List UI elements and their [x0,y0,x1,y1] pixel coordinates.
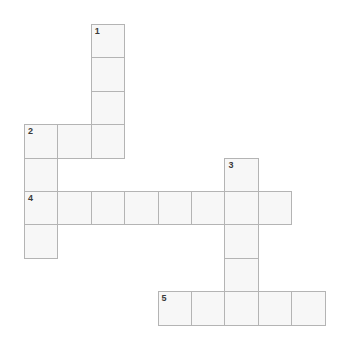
crossword-cell[interactable] [91,91,125,125]
crossword-cell[interactable] [191,291,225,325]
crossword-cell[interactable] [224,224,258,258]
crossword-cell[interactable]: 4 [24,191,58,225]
crossword-cell[interactable] [57,191,91,225]
crossword-cell[interactable] [258,291,292,325]
cell-number-3: 3 [228,160,233,171]
crossword-cell[interactable] [91,124,125,158]
crossword-cell[interactable]: 1 [91,24,125,58]
crossword-cell[interactable] [24,158,58,192]
crossword-cell[interactable] [158,191,192,225]
crossword-cell[interactable] [57,124,91,158]
crossword-cell[interactable] [24,224,58,258]
cell-number-2: 2 [28,126,33,137]
crossword-cell[interactable] [91,191,125,225]
crossword-cell[interactable] [91,57,125,91]
crossword-puzzle-grid: 12345 [0,0,342,358]
crossword-cell[interactable] [124,191,158,225]
crossword-cell[interactable] [258,191,292,225]
cell-number-5: 5 [162,293,167,304]
cell-number-1: 1 [95,26,100,37]
crossword-cell[interactable]: 2 [24,124,58,158]
crossword-cell[interactable] [291,291,325,325]
crossword-cell[interactable]: 3 [224,158,258,192]
crossword-cell[interactable] [191,191,225,225]
crossword-cell[interactable] [224,291,258,325]
crossword-cell[interactable]: 5 [158,291,192,325]
crossword-cell[interactable] [224,191,258,225]
cell-number-4: 4 [28,193,33,204]
crossword-cell[interactable] [224,258,258,292]
